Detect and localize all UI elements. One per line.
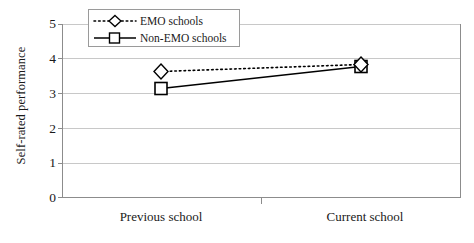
plot-area bbox=[62, 24, 461, 198]
diamond-marker-icon bbox=[109, 15, 121, 26]
legend-label-emo-schools: EMO schools bbox=[137, 15, 203, 27]
y-tick-0: 0 bbox=[34, 191, 56, 205]
axis-frame bbox=[62, 24, 461, 198]
non-emo-line bbox=[161, 67, 361, 89]
diamond-marker-previous bbox=[154, 64, 168, 79]
y-axis-title: Self-rated performance bbox=[14, 11, 29, 201]
y-tick-3: 3 bbox=[34, 87, 56, 101]
chart-legend: EMO schools Non-EMO schools bbox=[88, 9, 240, 47]
y-tick-5: 5 bbox=[34, 17, 56, 31]
y-tick-1: 1 bbox=[34, 156, 56, 170]
y-tick-2: 2 bbox=[34, 122, 56, 136]
y-tick-4: 4 bbox=[34, 52, 56, 66]
legend-non-emo-swatch bbox=[93, 30, 137, 46]
legend-entry-non-emo-schools: Non-EMO schools bbox=[89, 29, 239, 46]
series-emo-schools bbox=[154, 57, 368, 79]
square-marker-icon bbox=[110, 33, 120, 43]
legend-label-non-emo-schools: Non-EMO schools bbox=[137, 32, 227, 44]
x-tick-current-school: Current school bbox=[300, 209, 430, 225]
axis-ticks bbox=[58, 25, 262, 205]
square-marker-previous bbox=[155, 83, 167, 95]
plot-svg bbox=[62, 24, 461, 198]
y-axis-tick-labels: 5 4 3 2 1 0 bbox=[30, 0, 56, 243]
legend-symbol-emo bbox=[93, 13, 137, 29]
x-tick-previous-school: Previous school bbox=[96, 209, 226, 225]
chart-figure: Self-rated performance 5 4 3 2 1 0 bbox=[0, 0, 474, 243]
legend-emo-swatch bbox=[93, 13, 137, 29]
legend-symbol-non-emo bbox=[93, 30, 137, 46]
legend-entry-emo-schools: EMO schools bbox=[89, 12, 239, 29]
